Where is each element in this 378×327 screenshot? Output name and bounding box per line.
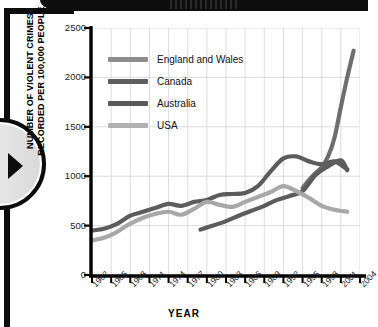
x-axis-title: YEAR: [0, 308, 368, 319]
y-tick-label: 2000: [65, 71, 86, 82]
legend-swatch: [108, 79, 148, 84]
x-tick-label: 2004: [358, 269, 378, 289]
legend-label: Australia: [157, 98, 196, 109]
y-tick-label: 1000: [65, 170, 86, 181]
legend-swatch: [108, 123, 148, 128]
y-tick-labels: 05001000150020002500: [40, 28, 86, 275]
legend-item[interactable]: Canada: [108, 70, 268, 92]
legend-item[interactable]: USA: [108, 114, 268, 136]
legend-item[interactable]: England and Wales: [108, 48, 268, 70]
legend-label: England and Wales: [157, 54, 243, 65]
top-band-texture: [170, 0, 240, 9]
chart-legend: England and WalesCanadaAustraliaUSA: [108, 48, 268, 136]
legend-label: USA: [157, 120, 178, 131]
legend-label: Canada: [157, 76, 192, 87]
legend-swatch: [108, 101, 148, 106]
y-tick-label: 1500: [65, 121, 86, 132]
y-tick-label: 2500: [65, 22, 86, 33]
y-tick-label: 0: [81, 269, 86, 280]
legend-swatch: [108, 57, 148, 62]
y-tick-label: 500: [70, 220, 86, 231]
chart-container: NUMBER OF VIOLENT CRIMES RECORDED PER 10…: [0, 12, 368, 327]
legend-item[interactable]: Australia: [108, 92, 268, 114]
